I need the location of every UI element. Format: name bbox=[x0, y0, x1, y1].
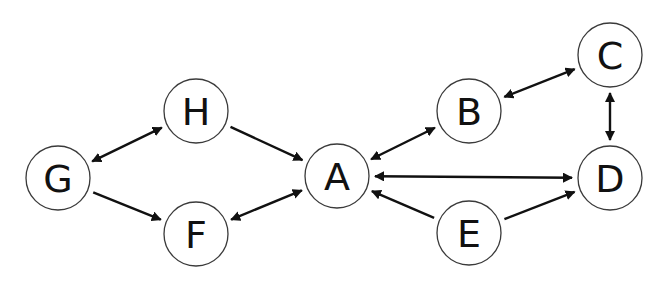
node-a: A bbox=[305, 144, 369, 208]
node-c: C bbox=[578, 23, 642, 87]
edge-b-c-bidirectional-arrow bbox=[504, 69, 574, 97]
node-f: F bbox=[164, 202, 228, 266]
nodes-layer: ABCDEFGH bbox=[26, 23, 642, 266]
edge-e-a-arrow bbox=[372, 191, 434, 218]
edge-g-f-arrow bbox=[93, 192, 161, 219]
node-b: B bbox=[437, 79, 501, 143]
node-label: G bbox=[43, 157, 72, 201]
node-label: F bbox=[185, 213, 207, 257]
node-label: B bbox=[456, 90, 482, 134]
node-g: G bbox=[26, 146, 90, 210]
node-label: C bbox=[597, 34, 624, 78]
node-e: E bbox=[437, 201, 501, 265]
edge-a-d-bidirectional-arrow bbox=[375, 176, 572, 177]
graph-diagram: ABCDEFGH bbox=[0, 0, 665, 284]
node-label: H bbox=[182, 90, 211, 134]
edge-h-a-arrow bbox=[231, 127, 303, 160]
node-label: A bbox=[324, 155, 350, 199]
node-h: H bbox=[164, 79, 228, 143]
edge-f-a-bidirectional-arrow bbox=[231, 190, 302, 219]
edge-a-b-bidirectional-arrow bbox=[371, 128, 435, 159]
node-label: E bbox=[457, 212, 481, 256]
node-label: D bbox=[595, 157, 624, 201]
edge-e-d-arrow bbox=[504, 192, 574, 219]
node-d: D bbox=[578, 146, 642, 210]
edge-g-h-bidirectional-arrow bbox=[92, 128, 162, 162]
